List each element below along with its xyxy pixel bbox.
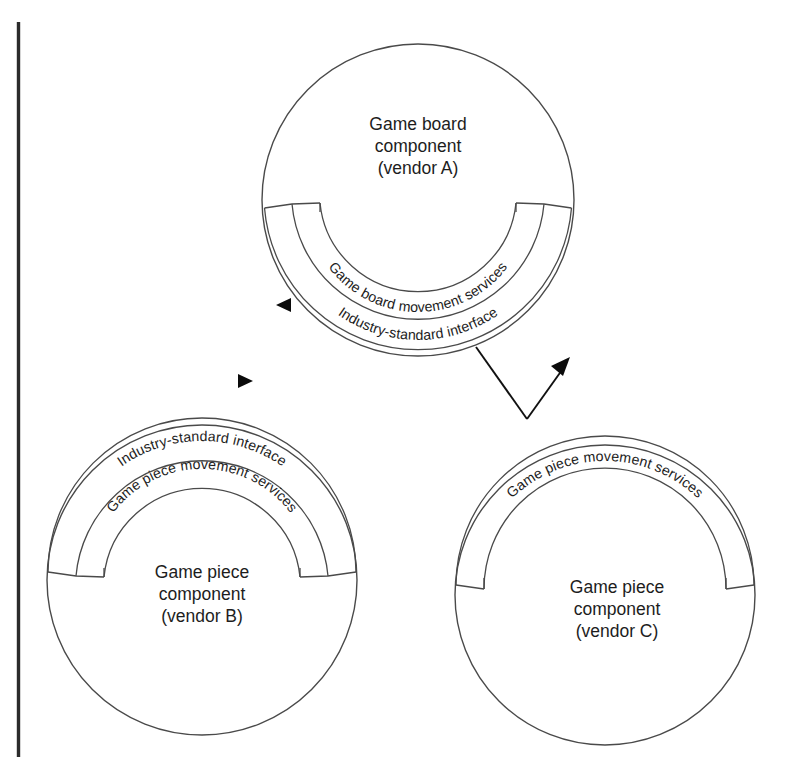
component-game-board-vendor-a[interactable]: Game board component (vendor A) Game boa… <box>262 44 574 356</box>
component-b-title-line3: (vendor B) <box>161 606 243 626</box>
component-a-title-line2: component <box>375 136 462 156</box>
component-b-title-line1: Game piece <box>155 562 249 582</box>
component-interface-diagram: Game board component (vendor A) Game boa… <box>0 0 800 761</box>
diagram-canvas: Game board component (vendor A) Game boa… <box>0 0 800 761</box>
component-game-piece-vendor-c[interactable]: Game piece component (vendor C) Game pie… <box>455 436 755 745</box>
component-c-title-line2: component <box>574 599 661 619</box>
component-b-title-line2: component <box>159 584 246 604</box>
connector-arrow-head-icon <box>551 357 570 376</box>
component-c-title-line3: (vendor C) <box>576 621 659 641</box>
connector-left-leg <box>476 347 527 419</box>
component-a-title-line1: Game board <box>369 114 466 134</box>
component-b-interface-arrow-icon <box>238 374 253 388</box>
component-a-interface-arrow-icon <box>276 298 291 312</box>
connector-vendor-c-to-vendor-a[interactable] <box>476 347 570 419</box>
component-c-title-line1: Game piece <box>570 577 664 597</box>
component-game-piece-vendor-b[interactable]: Game piece component (vendor B) Industry… <box>47 374 357 735</box>
component-a-title-line3: (vendor A) <box>378 158 459 178</box>
connector-right-leg <box>527 370 562 419</box>
